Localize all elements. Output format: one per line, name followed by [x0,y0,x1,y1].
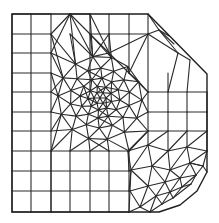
mesh-edge [111,100,119,102]
mesh-edge [148,145,152,166]
mesh-edge [86,118,98,125]
mesh-edge [58,91,71,96]
mesh-edge [107,139,129,151]
mesh-edge [76,116,86,125]
mesh-edge [100,98,103,103]
mesh-edge [72,125,86,130]
mesh-edge [108,110,116,117]
mesh-edge [105,82,111,88]
mesh-edge [61,114,76,116]
mesh-edge [101,58,112,68]
mesh-edge [76,114,88,116]
mesh-edge [106,98,107,108]
mesh-edge [77,79,84,87]
mesh-edge [124,80,129,92]
mesh-edge [61,114,72,129]
mesh-edge [61,104,70,114]
mesh-edge [111,90,118,94]
mesh-edge [148,145,168,151]
mesh-edge [88,114,98,118]
mesh-edge [70,129,72,151]
mesh-edge [106,98,111,102]
mesh-edge [93,57,101,68]
mesh-edge [111,58,127,67]
mesh-edge [187,147,207,151]
mesh-edge [118,90,129,92]
mesh-edge [107,108,117,110]
mesh-edge [156,196,162,204]
mesh-edge [168,151,170,170]
mesh-edge [129,82,138,92]
mesh-edge [131,166,152,170]
mesh-edge [71,104,82,106]
mesh-edge [196,166,203,175]
finite-element-mesh [0,0,219,223]
mesh-edge [63,78,71,91]
mesh-edge [187,60,190,92]
mesh-edge [82,99,88,107]
mesh-edge [75,64,87,71]
mesh-edge [168,53,178,92]
mesh-edge [142,92,148,100]
mesh-edge [118,80,124,90]
mesh-edge [130,191,140,207]
mesh-edge [131,170,148,186]
mesh-edge [71,104,76,116]
mesh-edge [140,207,150,212]
mesh-edge [72,116,76,129]
mesh-edge [99,128,107,139]
mesh-edge [89,128,100,138]
mesh-edge [120,92,130,100]
mesh-edge [102,71,114,78]
mesh-edge [71,91,80,96]
mesh-edge [51,53,75,64]
mesh-edge [187,147,190,163]
mesh-edge [63,78,77,79]
mesh-edge [86,125,88,139]
mesh-edge [70,14,90,34]
mesh-edge [101,68,102,78]
mesh-edge [170,170,180,178]
mesh-edge [58,96,61,114]
mesh-edge [148,30,159,34]
mesh-edge [90,86,97,90]
mesh-edge [129,100,142,105]
mesh-edge [112,80,124,82]
mesh-edge [112,125,124,132]
mesh-edge [98,118,99,128]
mesh-edge [114,71,124,80]
mesh-edge [107,139,109,151]
mesh-edge [51,114,61,131]
mesh-edge [89,138,90,151]
mesh-edge [90,80,91,91]
mesh-edge [63,64,75,78]
mesh-edge [103,93,106,98]
mesh-edge [148,131,168,145]
mesh-edge [51,112,61,114]
mesh-edge [142,100,148,112]
mesh-edge [120,100,129,105]
mesh-edge [129,92,142,100]
mesh-edge [190,163,203,166]
mesh-edge [129,105,137,118]
mesh-edge [152,151,168,166]
mesh-edge [148,166,152,186]
mesh-edge [82,106,89,114]
mesh-edge [111,82,112,94]
mesh-edge [72,129,88,138]
mesh-edge [92,80,98,87]
mesh-edge [123,117,137,118]
mesh-edge [125,132,129,151]
mesh-edge [112,117,123,125]
mesh-edge [165,182,170,192]
mesh-edge [125,118,137,132]
mesh-edge [93,57,112,58]
mesh-edge [80,96,82,106]
mesh-edge [103,93,111,94]
mesh-edge [187,131,207,147]
mesh-edge [97,78,102,86]
mesh-edge [51,14,70,34]
mesh-edge [190,163,196,175]
mesh-edge [100,93,103,98]
mesh-edge [180,178,182,187]
